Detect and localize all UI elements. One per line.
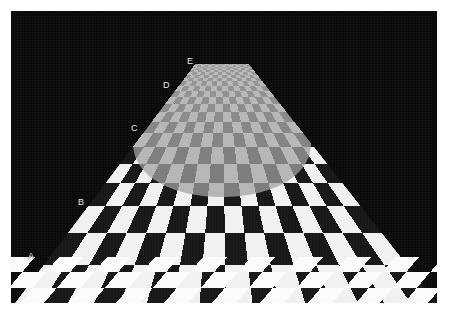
- plane-clip-group: [15, 64, 437, 303]
- depth-label-a: A: [28, 252, 34, 261]
- depth-label-d: D: [163, 81, 170, 90]
- depth-label-e: E: [187, 57, 193, 66]
- checkerboard-plane: [11, 11, 437, 303]
- image-panel: ABCDE: [11, 11, 437, 303]
- depth-label-b: B: [78, 198, 84, 207]
- depth-label-c: C: [131, 124, 138, 133]
- figure-root: ABCDE: [0, 0, 452, 321]
